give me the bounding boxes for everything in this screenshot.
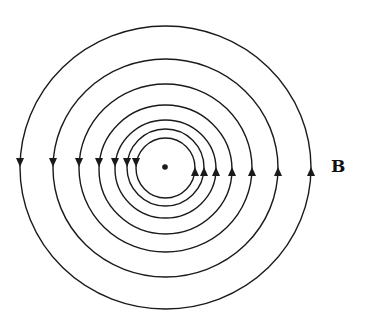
arrow-down-icon xyxy=(95,158,103,167)
arrow-up-icon xyxy=(200,167,208,176)
arrow-down-icon xyxy=(123,158,131,167)
arrow-up-icon xyxy=(212,167,220,176)
wire-cross-section-dot xyxy=(162,164,168,170)
arrow-up-icon xyxy=(307,167,315,176)
arrow-up-icon xyxy=(274,167,282,176)
arrow-down-icon xyxy=(16,158,24,167)
arrow-down-icon xyxy=(111,158,119,167)
arrow-up-icon xyxy=(248,167,256,176)
arrow-up-icon xyxy=(191,167,199,176)
arrow-down-icon xyxy=(49,158,57,167)
arrow-down-icon xyxy=(132,158,140,167)
magnetic-field-diagram xyxy=(0,0,372,326)
arrow-up-icon xyxy=(228,167,236,176)
field-label-b: B xyxy=(331,156,345,176)
arrow-down-icon xyxy=(75,158,83,167)
